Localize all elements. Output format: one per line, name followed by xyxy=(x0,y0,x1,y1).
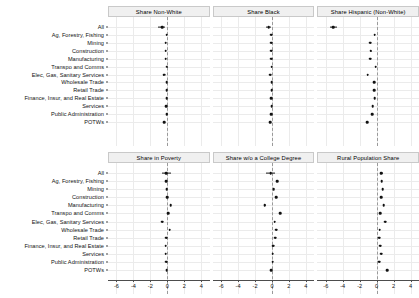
y-axis-category-label: Services xyxy=(82,103,104,109)
data-point xyxy=(366,73,369,76)
data-point xyxy=(378,228,381,231)
data-point xyxy=(170,204,173,207)
data-point xyxy=(275,228,278,231)
y-axis-category-label: Manufacturing xyxy=(68,56,104,62)
x-axis-tick xyxy=(411,280,412,282)
gridline-horizontal xyxy=(213,173,315,174)
x-axis-line xyxy=(213,280,315,281)
gridline-horizontal xyxy=(213,230,315,231)
x-axis-tick xyxy=(272,280,273,282)
data-point xyxy=(273,220,276,223)
x-axis-line xyxy=(108,280,210,281)
x-axis-tick xyxy=(343,280,344,282)
gridline-horizontal xyxy=(213,222,315,223)
zero-reference-line xyxy=(377,17,378,146)
x-axis-tick xyxy=(238,280,239,282)
gridline-horizontal xyxy=(213,75,315,76)
data-point xyxy=(270,89,273,92)
data-point xyxy=(270,49,273,52)
gridline-horizontal xyxy=(108,51,210,52)
data-point xyxy=(279,212,282,215)
data-point xyxy=(381,180,384,183)
data-point xyxy=(369,57,372,60)
x-axis-tick xyxy=(150,280,151,282)
data-point xyxy=(274,236,277,239)
data-point xyxy=(272,244,275,247)
gridline-horizontal xyxy=(213,238,315,239)
facet-panel: Rural Population Share-6-4-2024 xyxy=(317,152,419,294)
gridline-horizontal xyxy=(213,59,315,60)
y-axis-category-label: Retail Trade xyxy=(73,87,104,93)
gridline-horizontal xyxy=(213,106,315,107)
data-point xyxy=(374,65,377,68)
gridline-vertical xyxy=(150,163,151,294)
x-axis-tick-label: 0 xyxy=(270,283,273,289)
gridline-horizontal xyxy=(213,181,315,182)
data-point xyxy=(165,172,168,175)
facet-panel: Share in Poverty-6-4-2024 xyxy=(108,152,210,294)
data-point xyxy=(371,113,374,116)
gridline-horizontal xyxy=(108,106,210,107)
facet-strip-header: Share in Poverty xyxy=(108,152,210,163)
facet-strip-header: Share Hispanic (Non-White) xyxy=(317,6,419,17)
gridline-vertical xyxy=(221,163,222,294)
data-point xyxy=(165,105,168,108)
x-axis-tick-label: -4 xyxy=(236,283,241,289)
x-axis: -6-4-2024 xyxy=(213,280,315,294)
gridline-horizontal xyxy=(317,35,419,36)
gridline-horizontal xyxy=(213,114,315,115)
gridline-vertical xyxy=(360,163,361,294)
gridline-horizontal xyxy=(213,82,315,83)
data-point xyxy=(161,26,164,29)
data-point xyxy=(380,253,383,256)
data-point xyxy=(167,212,170,215)
x-axis-tick xyxy=(326,280,327,282)
data-point xyxy=(369,42,372,45)
gridline-horizontal xyxy=(317,98,419,99)
data-point xyxy=(379,212,382,215)
facet-strip-header: Share Non-White xyxy=(108,6,210,17)
data-point xyxy=(373,34,376,37)
data-point xyxy=(269,172,272,175)
gridline-horizontal xyxy=(317,82,419,83)
y-axis-category-label: Finance, Insur, and Real Estate xyxy=(24,95,104,101)
data-point xyxy=(271,65,274,68)
gridline-horizontal xyxy=(317,246,419,247)
data-point xyxy=(380,172,383,175)
plot-area xyxy=(108,17,210,146)
y-axis-category-label: Ag, Forestry, Fishing xyxy=(52,32,104,38)
data-point xyxy=(164,49,167,52)
gridline-horizontal xyxy=(213,246,315,247)
gridline-horizontal xyxy=(213,254,315,255)
data-point xyxy=(267,26,270,29)
x-axis-tick xyxy=(201,280,202,282)
y-axis-category-label: Transpo and Comms xyxy=(51,210,104,216)
facet-row-top: AllAg, Forestry, FishingMiningConstructi… xyxy=(0,6,419,146)
y-axis-category-label: All xyxy=(98,170,104,176)
data-point xyxy=(373,97,376,100)
y-axis-labels-bottom: AllAg, Forestry, FishingMiningConstructi… xyxy=(0,152,108,294)
data-point xyxy=(164,244,167,247)
gridline-horizontal xyxy=(108,262,210,263)
y-axis-category-label: Construction xyxy=(72,194,104,200)
x-axis-tick-label: 4 xyxy=(200,283,203,289)
gridline-horizontal xyxy=(108,98,210,99)
data-point xyxy=(270,42,273,45)
data-point xyxy=(381,188,384,191)
gridline-horizontal xyxy=(317,254,419,255)
gridline-horizontal xyxy=(317,205,419,206)
facet-panel: Share w/o a College Degree-6-4-2024 xyxy=(213,152,315,294)
y-axis-category-label: Elec, Gas, Sanitary Services xyxy=(32,219,104,225)
y-axis-category-label: Elec, Gas, Sanitary Services xyxy=(32,72,104,78)
x-axis-tick-label: -4 xyxy=(340,283,345,289)
x-axis-tick xyxy=(255,280,256,282)
gridline-horizontal xyxy=(213,122,315,123)
y-axis-category-label: Public Administration xyxy=(51,259,104,265)
gridline-horizontal xyxy=(317,262,419,263)
data-point xyxy=(270,105,273,108)
data-point xyxy=(166,196,169,199)
data-point xyxy=(379,244,382,247)
data-point xyxy=(165,89,168,92)
data-point xyxy=(372,105,375,108)
gridline-vertical xyxy=(306,163,307,294)
